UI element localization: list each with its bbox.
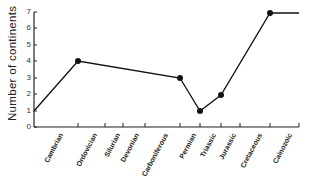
data-markers bbox=[75, 10, 273, 114]
data-line bbox=[34, 13, 299, 111]
y-tick-label: 2 bbox=[21, 89, 31, 98]
y-tick-label: 5 bbox=[21, 40, 31, 49]
y-tick-label: 6 bbox=[21, 23, 31, 32]
y-tick-label: 4 bbox=[21, 56, 31, 65]
y-tick-label: 1 bbox=[21, 106, 31, 115]
y-axis-label: Number of continents bbox=[6, 11, 18, 121]
y-tick-label: 0 bbox=[21, 122, 31, 131]
y-tick-label: 7 bbox=[21, 7, 31, 16]
y-tick-label: 3 bbox=[21, 73, 31, 82]
